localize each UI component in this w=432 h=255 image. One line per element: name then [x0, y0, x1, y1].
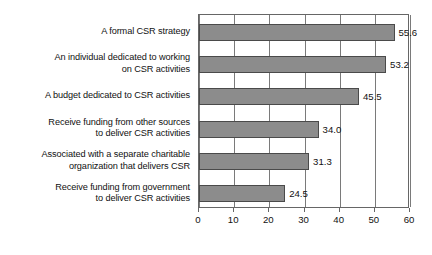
gridline-10	[234, 15, 235, 207]
gridline-40	[340, 15, 341, 207]
bar	[199, 121, 319, 138]
plot-area: 55.653.245.534.031.324.5	[198, 14, 409, 208]
gridline-0	[199, 15, 200, 207]
bar-chart: A formal CSR strategyAn individual dedic…	[0, 0, 432, 255]
category-label: Receive funding from government to deliv…	[0, 182, 190, 204]
bar-value-label: 45.5	[363, 88, 382, 105]
x-tick-mark	[339, 208, 340, 212]
x-tick-mark	[268, 208, 269, 212]
category-label: A formal CSR strategy	[0, 26, 190, 37]
gridline-20	[269, 15, 270, 207]
bar-value-label: 55.6	[399, 24, 418, 41]
bar	[199, 56, 386, 73]
x-tick-mark	[304, 208, 305, 212]
x-tick-label: 60	[404, 214, 415, 226]
gridline-60	[410, 15, 411, 207]
x-tick-label: 20	[263, 214, 274, 226]
bar-value-label: 53.2	[390, 56, 409, 73]
x-tick-label: 0	[195, 214, 200, 226]
bar	[199, 24, 395, 41]
bar	[199, 88, 359, 105]
gridline-50	[375, 15, 376, 207]
category-label: An individual dedicated to working on CS…	[0, 52, 190, 74]
x-tick-mark	[409, 208, 410, 212]
category-label: Receive funding from other sources to de…	[0, 117, 190, 139]
x-tick-label: 30	[298, 214, 309, 226]
x-tick-label: 40	[333, 214, 344, 226]
x-tick-mark	[233, 208, 234, 212]
category-axis: A formal CSR strategyAn individual dedic…	[0, 14, 194, 208]
gridline-30	[305, 15, 306, 207]
bar-value-label: 24.5	[289, 185, 308, 202]
bar-value-label: 34.0	[323, 121, 342, 138]
bar	[199, 185, 285, 202]
bar	[199, 153, 309, 170]
category-label: Associated with a separate charitable or…	[0, 149, 190, 171]
bar-value-label: 31.3	[313, 153, 332, 170]
x-axis: 0102030405060	[198, 208, 409, 238]
x-tick-mark	[374, 208, 375, 212]
x-tick-label: 10	[228, 214, 239, 226]
x-tick-mark	[198, 208, 199, 212]
x-tick-label: 50	[368, 214, 379, 226]
category-label: A budget dedicated to CSR activities	[0, 90, 190, 101]
